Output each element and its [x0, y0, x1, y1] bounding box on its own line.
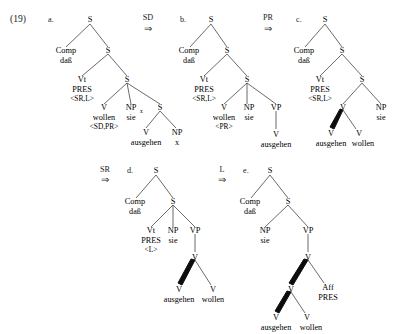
node-v-wollen-feature: <SD,PR>	[90, 122, 119, 131]
node-aff: Aff	[322, 283, 334, 292]
node-np-sie: NP	[260, 226, 271, 235]
branch	[108, 54, 127, 76]
node-vt-feature: <SR,L>	[192, 94, 216, 103]
tree-d: d. S Comp daß S Vt PRES <L> NP sie VP V …	[125, 166, 224, 304]
node-vt-feature: <SR,L>	[70, 94, 94, 103]
branch	[136, 175, 156, 198]
arrow-sr: SR ⇒	[100, 165, 111, 185]
node-vp: VP	[303, 226, 314, 235]
node-vp: VP	[271, 103, 282, 112]
node-aff-word: PRES	[318, 293, 338, 302]
node-vt-word: PRES	[194, 85, 214, 94]
node-np-sie: NP	[126, 103, 137, 112]
arrow-l-glyph: ⇒	[218, 175, 226, 185]
node-np-sie-subscript: x	[140, 108, 143, 114]
branch	[160, 111, 176, 128]
node-np-sie-word: sie	[168, 236, 177, 245]
branch	[227, 54, 247, 76]
node-s3: S	[360, 75, 365, 84]
arrow-sd-label: SD	[143, 13, 154, 22]
node-v-ausgehen: V	[273, 130, 279, 139]
node-v-wollen-word: wollen	[93, 113, 115, 122]
node-s2: S	[340, 46, 345, 55]
node-v-ausgehen: V	[143, 128, 149, 137]
node-v-wollen-word: wollen	[202, 295, 224, 304]
node-v-ausgehen: V	[176, 285, 182, 294]
arrow-sr-label: SR	[100, 165, 111, 174]
node-s3: S	[125, 75, 130, 84]
branch-thick	[178, 259, 195, 285]
node-vt: Vt	[200, 75, 209, 84]
node-v-complex: V	[340, 103, 346, 112]
node-v-wollen-feature: <PR>	[215, 122, 232, 131]
branch	[251, 175, 270, 198]
branch	[308, 260, 324, 283]
arrow-l-label: L	[219, 165, 224, 174]
node-v-wollen: V	[101, 103, 107, 112]
node-v-ausgehen: V	[328, 129, 334, 138]
branch	[224, 83, 247, 104]
branch	[342, 54, 362, 76]
node-v-wollen: V	[221, 103, 227, 112]
node-root-s: S	[88, 15, 93, 24]
node-v-wollen: V	[210, 285, 216, 294]
node-vt-feature: <L>	[145, 245, 158, 254]
node-v-ausgehen-word: ausgehen	[261, 140, 291, 149]
tree-e: e. S Comp daß S NP sie VP V V Aff PRES V…	[240, 166, 338, 332]
node-v-complex: V	[192, 253, 198, 262]
node-vt: Vt	[316, 75, 325, 84]
node-comp-word: daß	[60, 56, 72, 65]
tree-a-letter: a.	[48, 15, 54, 24]
example-number: (19)	[10, 13, 26, 25]
branch	[343, 83, 362, 104]
node-v-wollen: V	[356, 129, 362, 138]
node-s2: S	[106, 46, 111, 55]
branch-thick	[330, 109, 343, 129]
node-root-s: S	[268, 166, 273, 175]
branch	[211, 24, 227, 47]
branch	[82, 54, 108, 76]
node-np-sie-word: sie	[244, 113, 253, 122]
branch	[156, 175, 173, 198]
branch	[190, 24, 211, 47]
node-comp-word: daß	[183, 56, 195, 65]
branch	[320, 54, 342, 76]
node-vt: Vt	[147, 226, 156, 235]
node-vp: VP	[190, 226, 201, 235]
node-np-sie-word: sie	[126, 113, 135, 122]
node-s4: S	[158, 103, 163, 112]
arrow-sd-glyph: ⇒	[144, 24, 152, 34]
node-s3: S	[245, 75, 250, 84]
node-vt-feature: <SR,L>	[308, 94, 332, 103]
node-v-wollen-word: wollen	[352, 139, 374, 148]
node-v-wollen-word: wollen	[300, 323, 322, 332]
branch	[127, 83, 160, 104]
branch	[305, 24, 325, 47]
branch	[173, 205, 195, 227]
branch	[66, 24, 90, 47]
branch	[104, 83, 127, 104]
node-s2: S	[286, 197, 291, 206]
node-comp: Comp	[179, 46, 199, 55]
branch	[325, 24, 342, 47]
branch	[288, 205, 308, 227]
tree-e-letter: e.	[243, 166, 249, 175]
node-s2: S	[171, 197, 176, 206]
node-v-mid: V	[288, 285, 294, 294]
arrow-l: L ⇒	[218, 165, 226, 185]
arrow-pr-label: PR	[263, 13, 274, 22]
branch-thick	[289, 259, 308, 285]
tree-b: b. S Comp daß S Vt PRES <SR,L> S V wolle…	[179, 15, 291, 149]
node-comp: Comp	[240, 197, 260, 206]
node-s2: S	[225, 46, 230, 55]
syntax-tree-figure: (19) a. S Comp daß S Vt PRES <SR,L> S V …	[0, 0, 403, 334]
node-vt-word: PRES	[141, 236, 161, 245]
node-v-ausgehen-word: ausgehen	[316, 139, 346, 148]
node-root-s: S	[154, 166, 159, 175]
node-np-x-word: x	[175, 138, 179, 147]
branch	[195, 260, 211, 285]
node-comp-word: daß	[244, 207, 256, 216]
branch	[265, 205, 288, 227]
node-v-ausgehen-word: ausgehen	[261, 323, 291, 332]
arrow-pr: PR ⇒	[263, 13, 274, 34]
